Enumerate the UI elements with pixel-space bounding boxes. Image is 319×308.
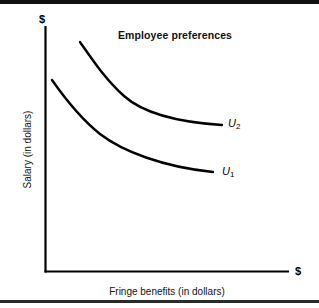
curve-label-u2-letter: U: [228, 117, 236, 129]
figure-screenshot: Employee preferences $ $ Salary (in doll…: [0, 0, 319, 308]
y-axis-dollar-marker: $: [39, 14, 45, 25]
chart-title: Employee preferences: [118, 29, 232, 41]
indifference-curve-u2: [80, 42, 222, 125]
indifference-curve-plot: [0, 4, 319, 300]
y-axis-label: Salary (in dollars): [22, 80, 33, 220]
bottom-border-band: [0, 300, 319, 303]
curve-label-u1-letter: U: [222, 165, 230, 177]
indifference-curve-u1: [52, 80, 213, 172]
figure-area: Employee preferences $ $ Salary (in doll…: [0, 4, 319, 300]
x-axis-dollar-marker: $: [295, 266, 301, 277]
curve-label-u2-subscript: 2: [236, 122, 240, 131]
x-axis-label: Fringe benefits (in dollars): [45, 286, 289, 297]
curve-label-u1: U1: [222, 165, 234, 177]
curve-label-u2: U2: [228, 117, 240, 129]
curve-label-u1-subscript: 1: [230, 170, 234, 179]
